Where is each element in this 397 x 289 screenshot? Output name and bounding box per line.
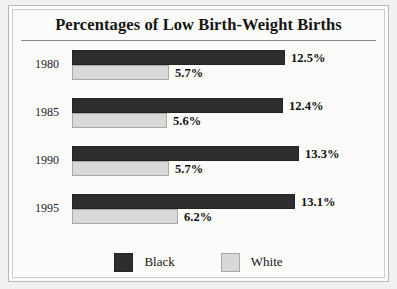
bar-track: 13.3% [72, 146, 384, 161]
bar-track: 5.6% [72, 113, 384, 128]
chart-frame: Percentages of Low Birth-Weight Births 1… [8, 5, 389, 282]
legend-entry[interactable]: Black [114, 253, 174, 272]
bar-value-label: 12.4% [289, 99, 323, 114]
bar-track: 12.4% [72, 98, 384, 113]
bar-group: 198012.5%5.7% [9, 48, 388, 82]
bar-black[interactable] [72, 98, 283, 113]
legend-label: Black [144, 254, 174, 270]
category-label: 1985 [17, 105, 59, 120]
bar-black[interactable] [72, 146, 299, 161]
bar-value-label: 13.3% [305, 147, 339, 162]
legend-swatch-icon [114, 253, 133, 272]
category-label: 1980 [17, 57, 59, 72]
category-label: 1990 [17, 153, 59, 168]
bar-white[interactable] [72, 65, 169, 80]
chart-legend: BlackWhite [9, 249, 388, 275]
bar-white[interactable] [72, 113, 167, 128]
bar-track: 13.1% [72, 194, 384, 209]
bar-black[interactable] [72, 194, 295, 209]
bar-track: 5.7% [72, 161, 384, 176]
plot-area: 198012.5%5.7%198512.4%5.6%199013.3%5.7%1… [9, 46, 388, 242]
legend-label: White [251, 254, 283, 270]
category-label: 1995 [17, 201, 59, 216]
bar-black[interactable] [72, 50, 285, 65]
legend-entry[interactable]: White [221, 253, 283, 272]
bar-value-label: 12.5% [291, 51, 325, 66]
bar-track: 12.5% [72, 50, 384, 65]
bar-track: 5.7% [72, 65, 384, 80]
chart-title: Percentages of Low Birth-Weight Births [9, 15, 388, 35]
title-divider [21, 40, 376, 41]
bar-group: 198512.4%5.6% [9, 96, 388, 130]
bar-white[interactable] [72, 209, 178, 224]
bar-value-label: 5.6% [173, 114, 201, 129]
bar-white[interactable] [72, 161, 169, 176]
bar-group: 199513.1%6.2% [9, 192, 388, 226]
legend-swatch-icon [221, 253, 240, 272]
bar-value-label: 5.7% [175, 162, 203, 177]
bar-group: 199013.3%5.7% [9, 144, 388, 178]
bar-value-label: 5.7% [175, 66, 203, 81]
bar-value-label: 6.2% [184, 210, 212, 225]
bar-track: 6.2% [72, 209, 384, 224]
bar-value-label: 13.1% [301, 195, 335, 210]
